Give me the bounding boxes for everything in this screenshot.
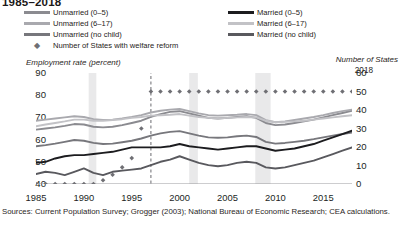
legend-line-swatch	[228, 33, 254, 36]
y-tick-right: 30	[356, 124, 376, 134]
welfare-reform-diamond	[82, 182, 87, 184]
legend-line-swatch	[228, 22, 254, 25]
legend-label: Unmarried (6–17)	[53, 19, 113, 28]
legend-line-swatch	[24, 33, 50, 36]
welfare-reform-diamond	[331, 89, 336, 94]
recession-band	[189, 73, 198, 184]
welfare-reform-diamond	[62, 182, 67, 184]
welfare-reform-diamond	[311, 89, 316, 94]
welfare-reform-diamond	[283, 89, 288, 94]
welfare-reform-diamond	[129, 156, 134, 161]
welfare-reform-diamond	[139, 126, 144, 131]
welfare-reform-diamond	[149, 89, 154, 94]
y-tick-right: 50	[356, 87, 376, 97]
welfare-reform-diamond	[225, 89, 230, 94]
y-tick-right: 60	[356, 68, 376, 78]
welfare-reform-diamond	[101, 178, 106, 183]
y-tick-right: 20	[356, 142, 376, 152]
welfare-reform-diamond	[321, 89, 326, 94]
chart-svg	[36, 73, 352, 184]
welfare-reform-diamond	[36, 182, 38, 184]
welfare-reform-diamond	[244, 89, 249, 94]
welfare-reform-diamond	[350, 89, 352, 94]
y-tick-right: 40	[356, 105, 376, 115]
legend-label: Unmarried (0–5)	[53, 8, 108, 17]
y-axis-left-label: Employment rate (percent)	[26, 58, 121, 67]
welfare-reform-diamond	[302, 89, 307, 94]
legend-item: Unmarried (no child)	[24, 30, 122, 39]
welfare-reform-diamond	[216, 89, 221, 94]
plot-area	[36, 73, 352, 184]
welfare-reform-diamond	[168, 89, 173, 94]
welfare-reform-diamond	[273, 89, 278, 94]
x-tick: 2015	[313, 193, 334, 202]
welfare-reform-diamond	[53, 182, 58, 184]
diamond-marker-icon: ◆	[24, 42, 50, 50]
x-tick: 2010	[265, 193, 286, 202]
sources-note: Sources: Current Population Survey; Grog…	[2, 206, 394, 217]
legend-item: Married (no child)	[228, 30, 316, 39]
legend-item: Married (0–5)	[228, 8, 303, 17]
welfare-reform-diamond	[340, 89, 345, 94]
x-tick: 1985	[26, 193, 47, 202]
y-tick-right: 0	[356, 179, 376, 189]
chart-figure: 1985–2018 Unmarried (0–5)Unmarried (6–17…	[0, 0, 401, 240]
welfare-reform-diamond	[158, 89, 163, 94]
welfare-reform-diamond	[43, 182, 48, 184]
legend-label: Number of States with welfare reform	[53, 41, 178, 50]
legend-item: Unmarried (6–17)	[24, 19, 113, 28]
x-tick: 1990	[73, 193, 94, 202]
welfare-reform-diamond	[72, 182, 77, 184]
welfare-reform-diamond	[120, 165, 125, 170]
legend-item: Married (6–17)	[228, 19, 307, 28]
chart-legend: Unmarried (0–5)Unmarried (6–17)Unmarried…	[0, 8, 401, 54]
welfare-reform-diamond	[292, 89, 297, 94]
legend-label: Married (0–5)	[257, 8, 303, 17]
legend-line-swatch	[228, 11, 254, 14]
figure-title: 1985–2018	[2, 0, 61, 8]
welfare-reform-diamond	[177, 89, 182, 94]
legend-line-swatch	[24, 11, 50, 14]
legend-line-swatch	[24, 22, 50, 25]
x-tick: 2005	[217, 193, 238, 202]
legend-label: Unmarried (no child)	[53, 30, 122, 39]
y-tick-right: 10	[356, 161, 376, 171]
legend-label: Married (6–17)	[257, 19, 307, 28]
recession-band	[89, 73, 97, 184]
x-tick: 1995	[121, 193, 142, 202]
y-axis-right-label: Number of States	[336, 55, 398, 64]
legend-item: ◆Number of States with welfare reform	[24, 41, 178, 50]
legend-label: Married (no child)	[257, 30, 316, 39]
welfare-reform-diamond	[235, 89, 240, 94]
x-tick: 2000	[169, 193, 190, 202]
welfare-reform-diamond	[206, 89, 211, 94]
legend-item: Unmarried (0–5)	[24, 8, 108, 17]
